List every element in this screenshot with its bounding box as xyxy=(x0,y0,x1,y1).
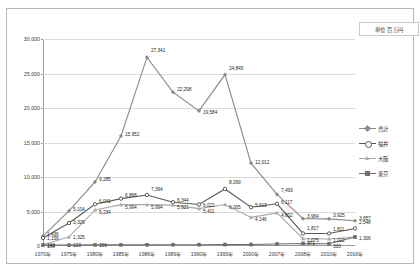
data-label: 3,964 xyxy=(307,214,319,219)
y-tick-label: 0 xyxy=(37,243,40,249)
data-label: 6,005 xyxy=(229,205,241,210)
data-point-marker xyxy=(301,232,304,235)
data-label: 1,325 xyxy=(73,235,85,240)
data-point-marker xyxy=(249,206,252,209)
chart-screenshot: 単位 百万円 05,00010,00015,00020,00025,00030,… xyxy=(0,0,420,272)
data-point-marker xyxy=(327,242,331,246)
data-label: 6,344 xyxy=(177,198,189,203)
data-label: 8,269 xyxy=(229,180,241,185)
chart-legend: 合計福井大阪東京 xyxy=(359,121,415,181)
data-label: 371 xyxy=(307,241,315,246)
data-label: 7,493 xyxy=(281,188,293,193)
legend-item-合計[interactable]: 合計 xyxy=(359,121,415,136)
data-label: 7,394 xyxy=(151,187,163,192)
data-point-marker xyxy=(223,243,227,247)
x-tick-label: 1990年 xyxy=(191,250,207,257)
x-tick-label: 1985年 xyxy=(113,250,129,257)
data-label: 27,341 xyxy=(151,48,165,53)
data-label: 5,411 xyxy=(203,209,214,214)
data-point-marker xyxy=(145,193,148,196)
data-point-marker xyxy=(353,227,356,230)
data-label: 5,234 xyxy=(99,210,111,215)
data-point-marker xyxy=(119,197,122,200)
data-label: 1,306 xyxy=(359,236,371,241)
data-point-marker xyxy=(93,243,97,247)
data-label: 3,329 xyxy=(73,220,85,225)
data-point-marker xyxy=(327,232,330,235)
data-label: 5,104 xyxy=(73,207,85,212)
data-point-marker xyxy=(145,243,149,247)
legend-item-福井[interactable]: 福井 xyxy=(359,136,415,151)
data-label: 143 xyxy=(47,243,55,248)
x-tick-label: 2016年 xyxy=(347,250,363,257)
data-label: 1,156 xyxy=(47,236,59,241)
x-tick-label: 2010年 xyxy=(321,250,337,257)
y-tick-label: 15,000 xyxy=(24,140,40,146)
legend-label: 東京 xyxy=(378,170,388,178)
data-point-marker xyxy=(119,134,123,138)
data-point-marker xyxy=(301,242,305,246)
legend-label: 合計 xyxy=(378,125,388,133)
data-label: 1,811 xyxy=(333,227,344,232)
data-point-marker xyxy=(67,243,71,247)
data-label: 6,868 xyxy=(125,193,137,198)
data-label: 156 xyxy=(99,243,107,248)
x-tick-label: 2008年 xyxy=(295,250,311,257)
data-point-marker xyxy=(41,243,45,247)
chart-container: 単位 百万円 05,00010,00015,00020,00025,00030,… xyxy=(6,8,414,264)
data-label: 4,146 xyxy=(255,217,267,222)
x-tick-label: 1970年 xyxy=(35,250,51,257)
data-point-marker xyxy=(249,243,253,247)
square-marker-icon xyxy=(359,169,376,178)
data-label: 15,952 xyxy=(125,132,139,137)
data-point-marker xyxy=(197,203,200,206)
diamond-marker-icon xyxy=(359,124,376,133)
y-tick-label: 20,000 xyxy=(24,105,40,111)
data-point-marker xyxy=(275,242,279,246)
data-point-marker xyxy=(93,203,96,206)
legend-item-大阪[interactable]: 大阪 xyxy=(359,151,415,166)
data-point-marker xyxy=(171,243,175,247)
y-tick-label: 30,000 xyxy=(24,36,40,42)
data-point-marker xyxy=(119,243,123,247)
legend-item-東京[interactable]: 東京 xyxy=(359,166,415,181)
legend-label: 福井 xyxy=(378,140,388,148)
data-point-marker xyxy=(353,235,357,239)
data-label: 9,285 xyxy=(99,177,111,182)
data-label: 2,548 xyxy=(359,220,371,225)
triangle-marker-icon xyxy=(359,154,376,163)
legend-label: 大阪 xyxy=(378,155,388,163)
data-label: 22,298 xyxy=(177,87,191,92)
data-label: 5,994 xyxy=(151,205,163,210)
x-tick-label: 1975年 xyxy=(61,250,77,257)
data-label: 1,817 xyxy=(307,226,319,231)
x-tick-label: 1995年 xyxy=(217,250,233,257)
data-point-marker xyxy=(327,217,331,221)
circle-marker-icon xyxy=(359,139,376,148)
data-label: 3,925 xyxy=(333,213,345,218)
data-label: 24,845 xyxy=(229,66,243,71)
y-tick-label: 5,000 xyxy=(27,209,40,215)
plot-area: 05,00010,00015,00020,00025,00030,000 197… xyxy=(43,39,355,246)
data-label: 4,802 xyxy=(281,213,293,218)
data-label: 1,022 xyxy=(333,238,345,243)
data-label: 12,012 xyxy=(255,160,269,165)
data-label: 330 xyxy=(333,244,341,249)
data-label: 5,994 xyxy=(125,205,137,210)
data-label: 5,921 xyxy=(177,205,189,210)
data-label: 6,041 xyxy=(99,199,111,204)
data-label: 19,584 xyxy=(203,110,217,115)
data-point-marker xyxy=(197,243,201,247)
data-label: 6,117 xyxy=(281,200,292,205)
y-tick-label: 25,000 xyxy=(24,71,40,77)
data-point-marker xyxy=(41,236,44,239)
data-point-marker xyxy=(275,202,278,205)
x-tick-label: 1980年 xyxy=(87,250,103,257)
data-point-marker xyxy=(67,221,70,224)
x-tick-label: 1986年 xyxy=(139,250,155,257)
y-tick-label: 10,000 xyxy=(24,174,40,180)
data-label: 5,613 xyxy=(255,203,267,208)
data-point-marker xyxy=(223,187,226,190)
data-point-marker xyxy=(353,219,357,223)
unit-caption: 単位 百万円 xyxy=(359,22,419,36)
